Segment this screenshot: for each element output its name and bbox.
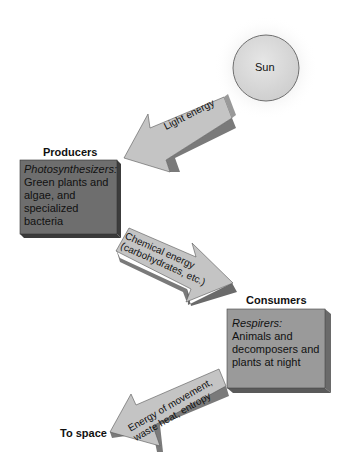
light-energy-arrow [124,94,236,172]
consumers-description: Respirers: Animals and decomposers and p… [232,317,326,369]
consumers-title: Consumers [246,294,307,306]
consumers-subtitle: Respirers: [232,317,282,329]
sun-label: Sun [255,61,275,73]
producers-subtitle: Photosynthesizers: [24,163,117,175]
producers-title: Producers [43,146,97,158]
producers-description: Photosynthesizers: Green plants and alga… [24,163,116,228]
to-space-label: To space [60,427,107,439]
